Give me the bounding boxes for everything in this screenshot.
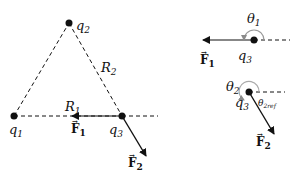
label-R1: R1 (64, 99, 81, 116)
angle-panel-F1: θ1 q3 F1 → (200, 11, 290, 69)
label-q3: q3 (109, 122, 123, 139)
label-q2: q2 (76, 18, 90, 35)
vector-arrow-icon: → (72, 117, 78, 126)
label-F1: F1 → (71, 117, 86, 138)
vector-arrow-icon: → (257, 130, 263, 139)
label-q3: q3 (238, 48, 252, 65)
label-F2: F2 → (128, 151, 143, 172)
charge-q1-dot (11, 113, 18, 120)
charge-q3-dot (251, 37, 258, 44)
angle-panel-F2: θ2 q3 θ2ref F2 → (226, 79, 285, 151)
charge-q3-dot (119, 113, 126, 120)
charge-q2-dot (66, 20, 73, 27)
force-F2-arrow (122, 116, 146, 156)
vector-arrow-icon: → (201, 48, 207, 57)
charge-q3-dot (246, 89, 253, 96)
triangle-panel: q2 q1 q3 R2 R1 F1 → F2 → (9, 18, 158, 172)
vector-arrow-icon: → (129, 151, 135, 160)
force-diagram: q2 q1 q3 R2 R1 F1 → F2 → θ1 q3 F1 → θ2 q… (0, 0, 292, 178)
label-F2: F2 → (256, 130, 271, 151)
label-theta2ref: θ2ref (258, 98, 278, 110)
label-F1: F1 → (200, 48, 215, 69)
label-q3: q3 (235, 95, 249, 112)
label-R2: R2 (100, 60, 117, 77)
label-theta2: θ2 (226, 79, 240, 96)
label-q1: q1 (9, 122, 23, 139)
dashed-line-q1-q2 (14, 23, 69, 116)
label-theta1: θ1 (247, 11, 261, 28)
